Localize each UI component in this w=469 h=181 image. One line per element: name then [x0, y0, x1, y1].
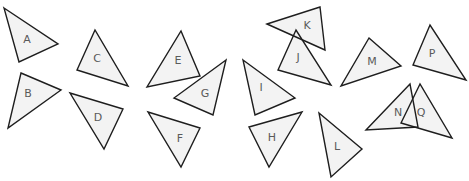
triangle-p-label: P: [429, 47, 436, 60]
triangle-diagram: ABCDEFGHIJKLMNPQ: [0, 0, 469, 181]
triangle-k-label: K: [303, 19, 311, 32]
diagram-svg: ABCDEFGHIJKLMNPQ: [0, 0, 469, 181]
triangle-m-label: M: [367, 55, 377, 68]
triangle-q-label: Q: [417, 106, 426, 119]
triangle-fills: [4, 7, 466, 177]
triangle-d-label: D: [94, 111, 102, 124]
triangle-e-fill: [147, 31, 200, 87]
triangle-f-label: F: [177, 132, 183, 145]
triangle-e-label: E: [175, 54, 182, 67]
triangle-b-fill: [8, 73, 61, 128]
triangle-labels: ABCDEFGHIJKLMNPQ: [23, 19, 435, 153]
triangle-i-label: I: [259, 81, 262, 94]
triangle-j-label: J: [295, 51, 299, 64]
triangle-b-label: B: [24, 87, 32, 100]
triangle-c-label: C: [93, 52, 101, 65]
triangle-h-label: H: [268, 131, 276, 144]
triangle-outlines: [4, 7, 466, 177]
triangle-a-label: A: [23, 33, 31, 46]
triangle-p-fill: [413, 25, 466, 80]
triangle-n-label: N: [394, 106, 402, 119]
triangle-g-label: G: [201, 87, 210, 100]
triangle-l-label: L: [334, 140, 341, 153]
